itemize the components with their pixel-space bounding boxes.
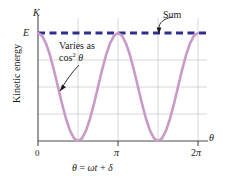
x-axis-caption: θ = ωt + δ	[72, 163, 113, 173]
xtick-label-0: 0	[35, 149, 40, 158]
varies-exponent: 2	[72, 51, 76, 59]
x-tick-marks	[38, 141, 198, 146]
varies-annotation-label: Varies as cos2 θ	[59, 41, 95, 63]
caption-omega-t: ωt	[88, 162, 98, 173]
x-axis-symbol-theta: θ	[209, 133, 214, 143]
caption-theta: θ	[72, 162, 77, 173]
y-axis-title: Kinetic energy	[11, 32, 22, 116]
xtick-2pi-symbol: π	[196, 147, 201, 158]
varies-arrow-curve	[63, 65, 79, 86]
caption-plus: +	[100, 162, 106, 173]
sum-annotation-label: Sum	[163, 10, 181, 20]
y-axis-level-E: E	[23, 28, 29, 38]
xtick-label-2pi: 2π	[191, 148, 201, 158]
caption-delta: δ	[108, 162, 113, 173]
varies-theta-symbol: θ	[78, 52, 83, 63]
varies-line-2: cos2 θ	[59, 52, 95, 63]
varies-cos-text: cos	[59, 52, 72, 63]
xtick-label-pi: π	[114, 148, 119, 158]
caption-equals: =	[79, 162, 85, 173]
figure-kinetic-energy-vs-theta: K E θ 0 π 2π Kinetic energy Sum Varies a…	[0, 0, 225, 181]
axes	[38, 16, 208, 141]
varies-line-1: Varies as	[59, 40, 95, 51]
varies-arrow	[60, 65, 80, 92]
y-axis-symbol-K: K	[33, 8, 40, 18]
varies-arrow-head	[60, 85, 66, 92]
